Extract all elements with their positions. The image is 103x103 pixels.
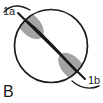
panel-label: B: [3, 84, 14, 100]
callout-label-1a: 1a: [3, 6, 15, 17]
callout-label-1b: 1b: [88, 75, 100, 86]
figure-panel-b: 1a 1b B: [0, 0, 103, 103]
spindle-diagram-svg: [0, 0, 103, 103]
spindle-pole-axis-line: [18, 13, 85, 79]
